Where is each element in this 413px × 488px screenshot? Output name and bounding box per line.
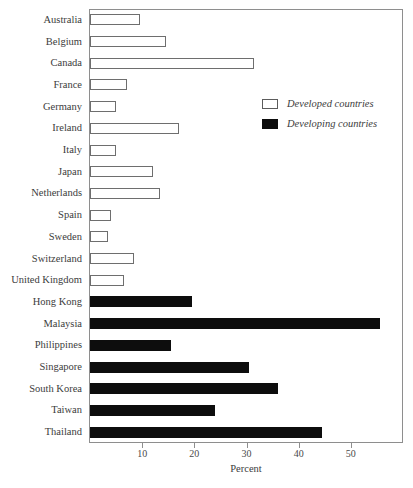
x-tick-label: 20 (189, 448, 199, 459)
bar-thailand (90, 427, 322, 438)
category-label: Singapore (0, 361, 86, 372)
category-label: Hong Kong (0, 296, 86, 307)
bar-belgium (90, 36, 166, 47)
cropped-title-text (95, 0, 395, 2)
legend-label-developing: Developing countries (287, 118, 377, 129)
category-label: Philippines (0, 339, 86, 350)
open-square-swatch-icon (262, 99, 278, 109)
bar-hong-kong (90, 296, 192, 307)
bar-singapore (90, 362, 249, 373)
category-label: Spain (0, 209, 86, 220)
chart-legend: Developed countries Developing countries (262, 95, 402, 135)
category-label: Sweden (0, 231, 86, 242)
bar-netherlands (90, 188, 160, 199)
category-label: France (0, 79, 86, 90)
category-label: Thailand (0, 426, 86, 437)
category-label: Italy (0, 144, 86, 155)
bar-south-korea (90, 383, 278, 394)
x-tick-label: 40 (294, 448, 304, 459)
category-label: Ireland (0, 122, 86, 133)
bar-france (90, 79, 127, 90)
category-axis-labels: AustraliaBelgiumCanadaFranceGermanyIrela… (0, 9, 86, 442)
bar-taiwan (90, 405, 215, 416)
bar-ireland (90, 123, 179, 134)
bar-japan (90, 166, 153, 177)
category-label: Switzerland (0, 253, 86, 264)
bar-switzerland (90, 253, 134, 264)
bars-layer (90, 9, 403, 443)
bar-australia (90, 14, 140, 25)
bar-spain (90, 210, 111, 221)
bar-philippines (90, 340, 171, 351)
category-label: Malaysia (0, 318, 86, 329)
category-label: United Kingdom (0, 274, 86, 285)
x-tick-label: 10 (137, 448, 147, 459)
bar-canada (90, 58, 254, 69)
category-label: South Korea (0, 383, 86, 394)
bar-germany (90, 101, 116, 112)
legend-label-developed: Developed countries (287, 98, 374, 109)
legend-item-developed: Developed countries (262, 95, 402, 112)
bar-italy (90, 145, 116, 156)
x-axis-title: Percent (89, 463, 403, 474)
category-label: Germany (0, 101, 86, 112)
category-label: Taiwan (0, 404, 86, 415)
horizontal-bar-chart: AustraliaBelgiumCanadaFranceGermanyIrela… (0, 0, 413, 488)
category-label: Belgium (0, 36, 86, 47)
bar-malaysia (90, 318, 380, 329)
x-axis: 1020304050 (89, 443, 403, 453)
bar-sweden (90, 231, 108, 242)
category-label: Canada (0, 57, 86, 68)
category-label: Australia (0, 14, 86, 25)
category-label: Netherlands (0, 187, 86, 198)
bar-united-kingdom (90, 275, 124, 286)
x-tick-label: 50 (346, 448, 356, 459)
filled-square-swatch-icon (262, 119, 278, 129)
x-tick-label: 30 (242, 448, 252, 459)
legend-item-developing: Developing countries (262, 115, 402, 132)
category-label: Japan (0, 166, 86, 177)
